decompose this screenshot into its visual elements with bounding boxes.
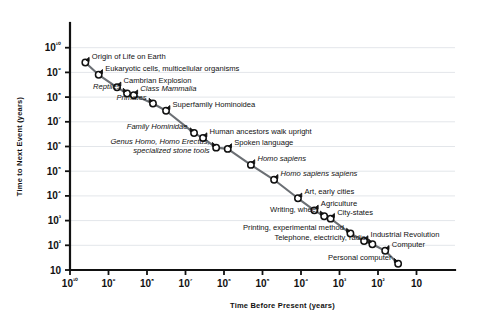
event-label: Eukaryotic cells, multicellular organism… [105,64,239,73]
label-pointer-icon [347,228,350,232]
event-label: Family Hominidae [127,122,188,131]
x-axis-title: Time Before Present (years) [230,301,335,310]
label-pointer-icon [167,106,170,110]
svg-text:10⁸: 10⁸ [140,277,154,289]
svg-text:10³: 10³ [48,214,62,226]
event-labels: Origin of Life on EarthEukaryotic cells,… [92,52,440,262]
svg-text:10⁷: 10⁷ [179,277,193,289]
chart-canvas: 10¹⁰10⁹10⁸10⁷10⁶10⁵10⁴10³10²10 10¹⁰10⁹10… [0,0,488,320]
y-axis-title: Time to Next Event (years) [15,97,24,197]
event-label: Class Mammalia [140,84,196,93]
event-label: Writing, wheel [270,205,318,214]
svg-text:10⁶: 10⁶ [217,277,231,289]
event-label: Industrial Revolution [371,230,440,239]
label-pointer-icon [228,144,231,148]
svg-text:10: 10 [50,265,62,276]
label-pointer-icon [212,142,215,146]
svg-text:10¹⁰: 10¹⁰ [45,41,61,53]
label-pointer-icon [394,258,397,262]
svg-text:10⁵: 10⁵ [47,165,61,177]
label-pointer-icon [369,239,372,243]
event-label: Human ancestors walk upright [210,127,313,136]
label-pointer-icon [320,211,323,215]
event-label: Superfamily Hominoidea [173,100,257,109]
log-log-event-chart: 10¹⁰10⁹10⁸10⁷10⁶10⁵10⁴10³10²10 10¹⁰10⁹10… [0,0,488,320]
event-label: Computer [392,240,426,249]
event-label: Spoken language [234,138,293,147]
event-label: Telephone, electricity, radio [274,233,365,242]
label-pointer-icon [386,246,389,250]
event-label: Printing, experimental method [243,223,344,232]
x-axis-tick-labels: 10¹⁰10⁹10⁸10⁷10⁶10⁵10⁴10³10²10 [62,277,423,289]
event-label: Homo sapiens sapiens [281,169,358,178]
label-pointer-icon [99,70,102,74]
svg-text:10⁹: 10⁹ [101,277,115,289]
svg-text:10³: 10³ [333,277,347,289]
label-pointer-icon [331,213,334,217]
event-label: Primates [116,93,146,102]
svg-text:10²: 10² [371,277,385,289]
svg-text:10⁵: 10⁵ [255,277,269,289]
label-pointer-icon [275,175,278,179]
event-label: Homo sapiens [257,154,306,163]
svg-text:10⁹: 10⁹ [47,66,61,78]
label-pointer-icon [190,128,193,132]
y-axis-tick-labels: 10¹⁰10⁹10⁸10⁷10⁶10⁵10⁴10³10²10 [45,41,62,275]
svg-text:10⁴: 10⁴ [294,277,308,289]
svg-text:10⁴: 10⁴ [47,189,61,201]
svg-text:10⁶: 10⁶ [47,140,61,152]
event-label: Reptiles [93,82,121,91]
svg-text:10: 10 [411,278,423,289]
label-pointer-icon [252,160,255,164]
label-pointer-icon [299,193,302,197]
event-label: Art, early cities [304,187,354,196]
label-pointer-icon [86,57,89,61]
label-pointer-icon [149,98,152,102]
svg-text:10¹⁰: 10¹⁰ [62,277,78,289]
event-label: Personal computer [328,253,392,262]
event-label: Genus Homo, Homo Erectus,specialized sto… [110,137,209,156]
svg-text:10²: 10² [48,239,62,251]
svg-text:10⁷: 10⁷ [47,115,61,127]
svg-text:10⁸: 10⁸ [47,91,61,103]
event-label: Origin of Life on Earth [92,52,166,61]
event-label: City-states [337,208,373,217]
